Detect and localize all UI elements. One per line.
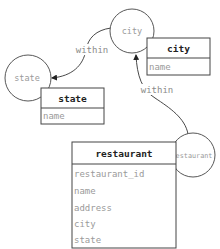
restaurant-field-state: state xyxy=(74,235,101,245)
table-city[interactable]: city name xyxy=(147,38,210,75)
table-state[interactable]: state name xyxy=(41,88,104,124)
table-restaurant[interactable]: restaurant restaurant_id name address ci… xyxy=(72,142,176,248)
edge-label-restaurant-city: within xyxy=(141,85,174,95)
restaurant-field-city: city xyxy=(74,219,96,229)
er-diagram-canvas: within within city city name state state… xyxy=(0,0,220,249)
city-field-name: name xyxy=(149,62,171,72)
city-node-label: city xyxy=(122,26,142,36)
node-restaurant[interactable]: restaurant xyxy=(171,133,215,177)
state-table-title: state xyxy=(58,93,87,104)
state-field-name: name xyxy=(43,111,65,121)
restaurant-node-label: restaurant xyxy=(172,152,213,160)
city-table-title: city xyxy=(167,43,190,54)
restaurant-table-title: restaurant xyxy=(95,148,152,159)
restaurant-field-restaurant-id: restaurant_id xyxy=(74,169,144,179)
edge-label-city-state: within xyxy=(76,45,109,55)
state-node-label: state xyxy=(14,73,40,83)
restaurant-field-name: name xyxy=(74,186,96,196)
restaurant-field-address: address xyxy=(74,203,112,213)
